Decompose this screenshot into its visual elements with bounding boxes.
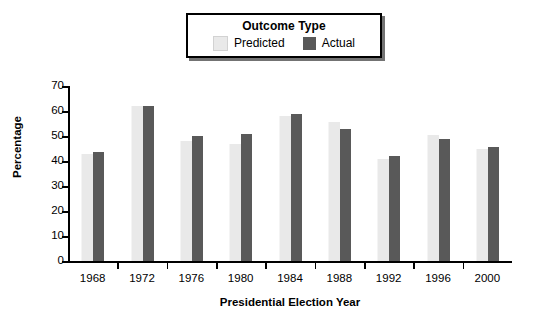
bar [229,144,241,262]
x-tick-mark [463,261,465,269]
x-axis-label: Presidential Election Year [68,296,512,308]
bar [241,134,252,262]
bar [291,114,302,262]
x-axis-line [68,261,512,263]
bar [180,141,192,261]
x-tick-mark [315,261,317,269]
y-tick-label: 30 [30,178,64,192]
x-tick-mark [265,261,267,269]
y-tick-label: 0 [30,253,64,267]
y-axis-line [68,86,70,261]
x-tick-label: 2000 [457,272,517,284]
y-tick-label: 20 [30,203,64,217]
plot-area: 010203040506070 196819721976198019841988… [68,86,512,261]
bar-chart: Percentage Presidential Election Year 01… [0,0,533,328]
bar [389,156,400,261]
bar [279,116,291,261]
y-tick-label: 40 [30,153,64,167]
bar [192,136,203,261]
bar [488,147,499,261]
bar [377,159,389,262]
y-tick-label: 50 [30,128,64,142]
y-tick-label: 70 [30,78,64,92]
y-tick-label: 10 [30,228,64,242]
x-tick-mark [117,261,119,269]
bar [131,106,143,261]
bar [81,154,93,262]
bar [93,152,104,261]
bar [427,135,439,261]
y-axis-label: Percentage [11,102,23,192]
bar [476,149,488,262]
x-tick-mark [364,261,366,269]
y-tick-label: 60 [30,103,64,117]
x-tick-mark [167,261,169,269]
x-tick-mark [413,261,415,269]
x-tick-mark [216,261,218,269]
bar [439,139,450,262]
bar [328,122,340,261]
bar [340,129,351,262]
bar [143,106,154,261]
